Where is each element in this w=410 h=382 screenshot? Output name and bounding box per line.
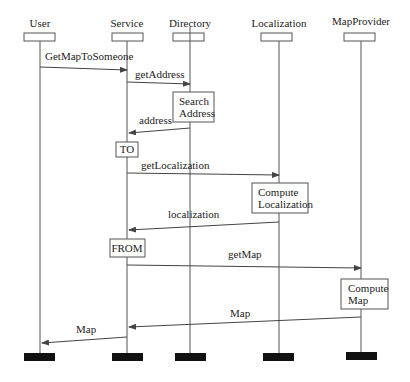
lifeline-end-directory xyxy=(175,353,206,361)
message-map-to-service: Map xyxy=(129,307,361,327)
message-arrow xyxy=(129,128,190,133)
lifeline-head-user xyxy=(24,33,55,41)
message-label: GetMapToSomeone xyxy=(45,50,134,62)
message-arrow xyxy=(42,337,127,343)
message-arrow xyxy=(127,82,190,84)
activity-search-address: Search Address xyxy=(173,92,215,122)
activity-from: FROM xyxy=(110,239,145,257)
message-getmap: getMap xyxy=(127,248,361,268)
activity-compute-localization: Compute Localization xyxy=(252,183,313,213)
message-map-to-user: Map xyxy=(42,323,127,343)
lifeline-end-localization xyxy=(263,353,294,361)
lifeline-end-mapprovider xyxy=(346,352,377,360)
message-label: address xyxy=(139,114,172,126)
message-arrow xyxy=(127,265,361,268)
message-label: getLocalization xyxy=(141,159,210,171)
activity-text: Search xyxy=(179,95,209,107)
activity-text: Compute xyxy=(258,186,298,198)
activity-text: Compute xyxy=(348,282,388,294)
message-getaddress: getAddress xyxy=(127,68,190,84)
message-getmaptosomeone: GetMapToSomeone xyxy=(40,50,134,70)
message-label: Map xyxy=(230,307,251,319)
message-label: getAddress xyxy=(135,68,185,80)
message-label: Map xyxy=(76,323,97,335)
activity-text: Map xyxy=(348,294,369,306)
sequence-diagram: User Service Directory Localization MapP… xyxy=(0,0,410,382)
message-arrow xyxy=(127,173,279,175)
message-label: localization xyxy=(168,208,220,220)
lifeline-head-mapprovider xyxy=(344,33,375,41)
message-label: getMap xyxy=(228,248,262,260)
lifeline-head-localization xyxy=(261,33,292,41)
lifeline-label-localization: Localization xyxy=(252,17,307,29)
lifeline-head-service xyxy=(112,33,143,41)
message-arrow xyxy=(129,222,279,230)
lifeline-head-directory xyxy=(173,33,204,41)
lifeline-end-user xyxy=(24,353,55,361)
message-arrow xyxy=(40,67,127,70)
activity-text: Localization xyxy=(258,198,313,210)
activity-text: TO xyxy=(120,143,135,155)
lifeline-end-service xyxy=(112,353,143,361)
activity-to: TO xyxy=(116,142,138,157)
lifeline-user: User xyxy=(24,17,55,361)
activity-text: Address xyxy=(179,107,215,119)
message-getlocalization: getLocalization xyxy=(127,159,279,175)
lifeline-label-mapprovider: MapProvider xyxy=(332,15,390,27)
lifeline-label-user: User xyxy=(30,17,51,29)
activity-text: FROM xyxy=(111,242,142,254)
activity-compute-map: Compute Map xyxy=(341,279,388,309)
lifeline-label-service: Service xyxy=(111,17,144,29)
